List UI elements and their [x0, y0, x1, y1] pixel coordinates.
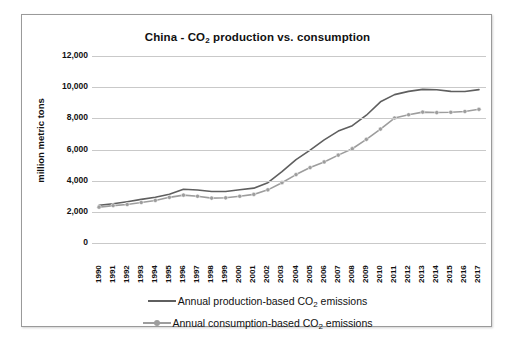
chart-title-post: production vs. consumption: [210, 31, 371, 43]
data-point-marker: [224, 196, 228, 200]
data-point-marker: [181, 193, 185, 197]
y-axis-tick-label: 12,000: [28, 50, 88, 60]
data-point-marker: [153, 198, 157, 202]
gridline: [92, 150, 486, 151]
legend-swatch-icon: [148, 296, 176, 306]
data-point-marker: [449, 110, 453, 114]
data-point-marker: [252, 192, 256, 196]
data-point-marker: [364, 137, 368, 141]
x-axis-tick-label: 1998: [206, 265, 215, 283]
legend-label: Annual production-based CO2 emissions: [178, 295, 367, 307]
legend-item-consumption[interactable]: Annual consumption-based CO2 emissions: [22, 312, 493, 334]
series-line-production: [99, 89, 479, 205]
x-axis-tick-label: 2017: [473, 265, 482, 283]
data-point-marker: [111, 204, 115, 208]
x-axis-tick-label: 1997: [192, 265, 201, 283]
data-point-marker: [125, 202, 129, 206]
x-axis-tick-label: 2013: [417, 265, 426, 283]
chart-frame: China - CO2 production vs. consumption m…: [21, 14, 492, 327]
y-axis-tick-label: 2,000: [28, 206, 88, 216]
x-axis-tick-label: 2002: [262, 265, 271, 283]
chart-legend: Annual production-based CO2 emissionsAnn…: [22, 290, 493, 334]
x-axis-tick-label: 2014: [431, 265, 440, 283]
data-point-marker: [294, 172, 298, 176]
y-axis-tick-label: 4,000: [28, 175, 88, 185]
legend-label: Annual consumption-based CO2 emissions: [173, 317, 373, 329]
plot-area: 02,0004,0006,0008,00010,00012,000: [92, 56, 486, 243]
gridline: [92, 212, 486, 213]
x-axis-tick-label: 2004: [291, 265, 300, 283]
y-axis-title: million metric tons: [35, 71, 46, 211]
x-axis-tick-label: 2016: [459, 265, 468, 283]
data-point-marker: [407, 113, 411, 117]
gridline: [92, 56, 486, 57]
y-axis-tick-label: 6,000: [28, 144, 88, 154]
data-point-marker: [195, 194, 199, 198]
legend-swatch-icon: [143, 318, 171, 328]
x-axis-tick-label: 2006: [319, 265, 328, 283]
data-point-marker: [421, 110, 425, 114]
x-axis-tick-label: 1992: [122, 265, 131, 283]
legend-item-production[interactable]: Annual production-based CO2 emissions: [22, 290, 493, 312]
gridline: [92, 87, 486, 88]
x-axis-tick-label: 2011: [389, 266, 398, 283]
x-axis-tick-label: 2000: [234, 265, 243, 283]
x-axis-tick-label: 2001: [248, 265, 257, 283]
data-point-marker: [477, 107, 481, 111]
x-axis-tick-label: 2007: [333, 265, 342, 283]
x-axis-tick-label: 1999: [220, 265, 229, 283]
data-point-marker: [463, 109, 467, 113]
gridline: [92, 243, 486, 244]
gridline: [92, 181, 486, 182]
data-point-marker: [435, 110, 439, 114]
x-axis-tick-label: 1993: [136, 265, 145, 283]
x-axis-tick-label: 1996: [178, 265, 187, 283]
data-point-marker: [322, 160, 326, 164]
data-point-marker: [238, 194, 242, 198]
data-point-marker: [167, 195, 171, 199]
data-point-marker: [378, 127, 382, 131]
data-point-marker: [308, 165, 312, 169]
x-axis-tick-label: 1991: [108, 265, 117, 283]
gridline: [92, 118, 486, 119]
x-axis-tick-label: 2009: [361, 265, 370, 283]
data-point-marker: [266, 188, 270, 192]
x-axis-tick-label: 2010: [375, 265, 384, 283]
x-axis-tick-label: 2015: [445, 265, 454, 283]
data-point-marker: [139, 200, 143, 204]
x-axis-tick-label: 1995: [164, 265, 173, 283]
x-axis-tick-label: 2003: [276, 265, 285, 283]
x-axis-labels: 1990199119921993199419951996199719981999…: [92, 247, 486, 283]
x-axis-tick-label: 2005: [305, 265, 314, 283]
x-axis-tick-label: 2008: [347, 265, 356, 283]
data-point-marker: [336, 153, 340, 157]
chart-title-pre: China - CO: [145, 31, 205, 43]
data-point-marker: [97, 205, 101, 209]
x-axis-tick-label: 2012: [403, 265, 412, 283]
data-point-marker: [210, 196, 214, 200]
chart-title-subscript: 2: [205, 36, 210, 45]
x-axis-tick-label: 1994: [150, 265, 159, 283]
y-axis-tick-label: 10,000: [28, 81, 88, 91]
y-axis-tick-label: 8,000: [28, 112, 88, 122]
x-axis-tick-label: 1990: [94, 265, 103, 283]
chart-title: China - CO2 production vs. consumption: [22, 31, 493, 43]
series-line-consumption: [99, 109, 479, 207]
y-axis-tick-label: 0: [28, 237, 88, 247]
